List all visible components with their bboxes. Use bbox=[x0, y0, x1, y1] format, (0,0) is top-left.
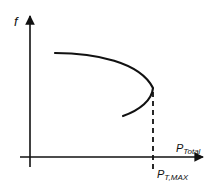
x-axis-label: PTotal bbox=[176, 142, 201, 156]
y-axis-label: f bbox=[14, 14, 19, 29]
nose-curve bbox=[55, 53, 153, 116]
max-power-label: PT,MAX bbox=[157, 168, 189, 182]
pv-curve-diagram: f PTotal PT,MAX bbox=[0, 0, 217, 184]
